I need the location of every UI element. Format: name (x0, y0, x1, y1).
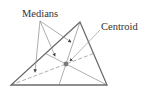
medians-label: Medians (22, 9, 58, 20)
median-from-right-vertex (46, 54, 108, 86)
median-from-left-vertex (11, 54, 94, 86)
centroid-label: Centroid (101, 22, 138, 33)
median-lines (11, 22, 107, 85)
centroid-dot (64, 62, 69, 67)
pointer-3 (35, 21, 40, 72)
